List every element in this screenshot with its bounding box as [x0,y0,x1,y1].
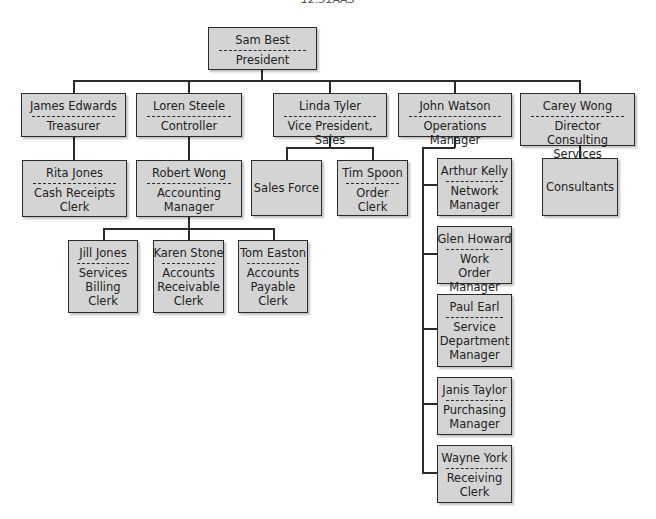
org-node-sales-force: Sales Force [251,160,322,216]
node-name: Rita Jones [46,166,103,180]
org-node-ar-clerk: Karen Stone Accounts Receivable Clerk [153,240,224,313]
connector [422,403,437,405]
connector [579,80,581,93]
node-name: Robert Wong [152,166,226,180]
node-title: Director Consulting Services [525,119,630,161]
org-node-vp-sales: Linda Tyler Vice President, Sales [273,93,387,137]
figure-caption: 12.31AAS [0,0,656,6]
connector [422,147,424,473]
node-title: Receiving Clerk [447,471,503,499]
org-node-work-order-manager: Glen Howard Work Order Manager [437,226,512,284]
dashed-divider [531,116,623,117]
node-title: Service Department Manager [440,320,510,362]
connector [273,228,275,240]
dashed-divider [446,181,503,182]
org-node-receiving-clerk: Wayne York Receiving Clerk [437,445,512,503]
node-name: Tim Spoon [342,166,403,180]
org-node-ap-clerk: Tom Easton Accounts Payable Clerk [238,240,308,313]
node-title: Vice President, Sales [278,119,382,147]
node-title: Work Order Manager [442,252,507,294]
node-title: Cash Receipts Clerk [34,186,115,214]
dashed-divider [33,183,117,184]
dashed-divider [219,50,306,51]
node-name: Paul Earl [450,300,500,314]
node-label: Sales Force [254,181,319,195]
node-name: Janis Taylor [442,383,507,397]
node-name: Tom Easton [240,246,306,260]
dashed-divider [409,116,501,117]
node-title: Accounts Payable Clerk [247,266,299,308]
node-name: Carey Wong [543,99,612,113]
node-label: Consultants [546,180,614,194]
connector [422,328,437,330]
dashed-divider [446,468,503,469]
dashed-divider [32,116,116,117]
connector [286,147,288,160]
node-title: Accounts Receivable Clerk [157,266,220,308]
connector [454,80,456,93]
connector [286,147,372,149]
connector [422,184,437,186]
org-node-purchasing-manager: Janis Taylor Purchasing Manager [437,377,512,435]
node-name: Glen Howard [437,232,511,246]
connector [422,472,437,474]
dashed-divider [147,183,231,184]
node-name: Jill Jones [79,246,126,260]
connector [422,253,437,255]
connector [372,147,374,160]
node-title: Order Clerk [342,186,403,214]
org-node-consultants: Consultants [542,158,618,216]
node-title: Network Manager [449,184,499,212]
connector [188,228,190,240]
org-node-network-manager: Arthur Kelly Network Manager [437,158,512,216]
dashed-divider [247,263,300,264]
node-name: Arthur Kelly [441,164,508,178]
connector [329,80,331,93]
org-node-controller: Loren Steele Controller [136,93,242,137]
dashed-divider [446,317,503,318]
node-title: President [236,53,290,67]
org-node-order-clerk: Tim Spoon Order Clerk [337,160,408,216]
connector [103,228,105,240]
node-name: John Watson [419,99,490,113]
connector [73,136,75,160]
org-node-service-department-manager: Paul Earl Service Department Manager [437,294,512,367]
dashed-divider [446,249,503,250]
org-node-cash-receipts-clerk: Rita Jones Cash Receipts Clerk [22,160,127,217]
node-title: Operations Manager [403,119,507,147]
node-title: Accounting Manager [157,186,221,214]
node-name: Linda Tyler [299,99,361,113]
org-node-president: Sam Best President [208,27,317,70]
dashed-divider [147,116,231,117]
connector [188,136,190,160]
org-node-director-consulting: Carey Wong Director Consulting Services [520,93,635,146]
org-node-treasurer: James Edwards Treasurer [21,93,126,137]
node-name: Wayne York [441,451,507,465]
connector [188,80,190,93]
dashed-divider [446,400,503,401]
node-name: Sam Best [235,33,290,47]
connector [422,147,455,149]
node-name: James Edwards [30,99,117,113]
org-node-operations-manager: John Watson Operations Manager [398,93,512,137]
dashed-divider [77,263,130,264]
org-node-accounting-manager: Robert Wong Accounting Manager [136,160,242,217]
node-title: Services Billing Clerk [79,266,128,308]
node-title: Purchasing Manager [443,403,506,431]
connector [73,80,580,82]
dashed-divider [284,116,376,117]
connector [73,80,75,93]
node-name: Loren Steele [153,99,225,113]
node-title: Treasurer [47,119,101,133]
node-title: Controller [161,119,218,133]
dashed-divider [346,183,400,184]
node-name: Karen Stone [153,246,223,260]
dashed-divider [162,263,216,264]
org-node-services-billing-clerk: Jill Jones Services Billing Clerk [68,240,138,313]
